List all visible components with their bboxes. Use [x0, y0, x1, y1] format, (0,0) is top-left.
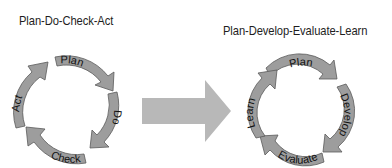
pdca-act-segment: [14, 62, 48, 128]
pdca-cycle: Plan Do Check Act: [9, 53, 124, 165]
pdel-label-plan: Plan: [288, 55, 314, 69]
pdel-label-develop: Develop: [337, 92, 355, 139]
pdel-label-evaluate: Evaluate: [276, 148, 319, 166]
pdel-cycle: Plan Develop Evaluate Learn: [243, 54, 355, 166]
pdca-label-do: Do: [110, 110, 124, 126]
pdca-label-check: Check: [50, 148, 82, 164]
pdca-label-plan: Plan: [61, 53, 86, 68]
transition-arrow-icon: [142, 80, 231, 142]
cycle-diagram-canvas: Plan Do Check Act Plan Develop Evaluate …: [0, 0, 392, 168]
